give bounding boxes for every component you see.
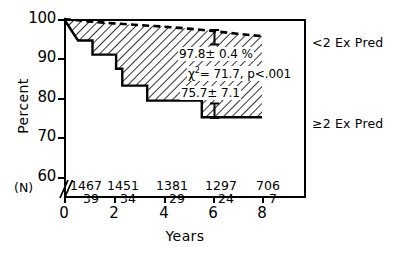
x-ticklabel-4: 4 bbox=[149, 205, 179, 221]
x-ticklabel-0: 0 bbox=[49, 205, 79, 221]
x-axis-title: Years bbox=[64, 228, 306, 244]
series-label-ge2: ≥2 Ex Pred bbox=[312, 116, 383, 131]
n-bottom-6: 24 bbox=[203, 192, 249, 205]
n-bottom-8: 7 bbox=[250, 192, 296, 205]
annotation-chi-square: χ2= 71.7, p<.001 bbox=[187, 66, 292, 81]
y-tick-70 bbox=[58, 137, 65, 139]
annotation-upper-value: 97.8± 0.4 % bbox=[178, 47, 254, 61]
annotation-lower-value: 75.7± 7.1 bbox=[180, 86, 241, 100]
y-tick-80 bbox=[58, 98, 65, 100]
y-ticklabel-100-wrap: 100 bbox=[12, 11, 56, 27]
x-ticklabel-2: 2 bbox=[99, 205, 129, 221]
plot-frame bbox=[64, 19, 306, 197]
chi-rest: = 71.7, p<.001 bbox=[200, 67, 291, 81]
chi-glyph: χ bbox=[188, 67, 195, 81]
y-tick-90 bbox=[58, 58, 65, 60]
y-ticklabel-100: 100 bbox=[22, 11, 56, 26]
series-label-lt2: <2 Ex Pred bbox=[312, 35, 383, 50]
n-row-label: (N) bbox=[14, 180, 33, 195]
n-bottom-4: 29 bbox=[154, 192, 200, 205]
y-tick-100 bbox=[58, 19, 65, 21]
y-axis-title: Percent bbox=[15, 61, 31, 151]
figure: 100 90 80 70 60 Percent 0 2 4 6 8 Years … bbox=[0, 0, 398, 255]
x-ticklabel-6: 6 bbox=[198, 205, 228, 221]
x-tick-0 bbox=[64, 196, 66, 203]
x-ticklabel-8: 8 bbox=[247, 205, 277, 221]
n-top-8: 706 bbox=[245, 179, 291, 192]
n-bottom-2: 34 bbox=[105, 192, 151, 205]
